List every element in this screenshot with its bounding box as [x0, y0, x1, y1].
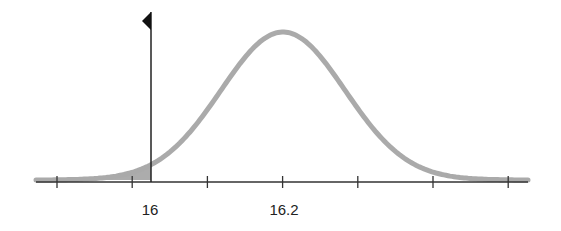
tick-label-16-2: 16.2	[269, 201, 298, 218]
normal-distribution-chart: 16 16.2	[0, 0, 561, 231]
flag-icon	[142, 12, 151, 30]
normal-curve	[36, 32, 528, 180]
tick-label-16: 16	[142, 201, 159, 218]
